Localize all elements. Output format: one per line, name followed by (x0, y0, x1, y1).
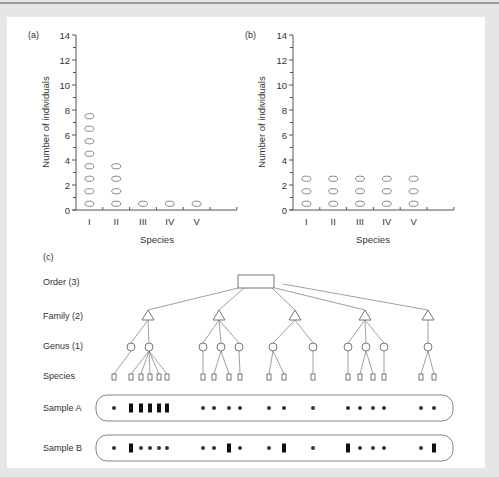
individual-oval-b (302, 176, 311, 181)
y-tick-label-a: 14 (59, 30, 70, 41)
individual-oval-a (85, 164, 94, 169)
y-tick-label-b: 8 (282, 105, 287, 116)
sample-dot-mark (157, 446, 161, 450)
family-genus-edge (148, 320, 149, 343)
species-node (112, 374, 116, 380)
individual-oval-b (356, 189, 365, 194)
species-node (282, 374, 286, 380)
y-tick-label-b: 6 (282, 130, 287, 141)
individual-oval-b (382, 201, 391, 206)
sample-dot-mark (112, 446, 116, 450)
individual-oval-a (139, 201, 148, 206)
x-tick-label-a: III (139, 216, 147, 227)
species-node (371, 374, 375, 380)
individual-oval-b (302, 189, 311, 194)
species-node (212, 374, 216, 380)
individual-oval-b (302, 201, 311, 206)
family-node (289, 310, 301, 320)
y-tick-label-a: 6 (65, 130, 70, 141)
family-node (422, 310, 434, 320)
sample-dot-mark (201, 446, 205, 450)
genus-node (309, 343, 317, 351)
genus-species-edge (273, 351, 284, 374)
y-tick-label-a: 4 (65, 155, 70, 166)
individual-oval-b (409, 176, 418, 181)
sample-dot-mark (371, 446, 375, 450)
chart-b: (b) Number of individuals Species 024681… (245, 30, 454, 246)
sample-label-a: Sample A (43, 403, 82, 413)
order-family-edge (148, 288, 238, 310)
sample-dot-mark (419, 446, 423, 450)
species-node (346, 374, 350, 380)
y-tick-label-a: 8 (65, 105, 70, 116)
genus-species-edge (269, 351, 273, 374)
sample-bar-mark (227, 444, 231, 453)
family-genus-edge (348, 320, 365, 343)
family-node (359, 310, 371, 320)
individual-oval-a (85, 126, 94, 131)
x-tick-label-b: V (410, 216, 417, 227)
level-label-genus: Genus (1) (43, 341, 83, 351)
genus-species-edge (214, 351, 221, 374)
individual-oval-a (85, 151, 94, 156)
order-family-edge (272, 288, 295, 310)
y-tick-label-a: 12 (59, 55, 70, 66)
x-tick-label-a: I (88, 216, 91, 227)
sample-dot-mark (282, 406, 286, 410)
panel-label-b: (b) (245, 30, 256, 40)
order-family-edge (219, 288, 244, 310)
species-node (382, 374, 386, 380)
species-node (139, 374, 143, 380)
sample-dot-mark (358, 446, 362, 450)
y-tick-label-b: 2 (282, 180, 287, 191)
individual-oval-a (112, 201, 121, 206)
individual-oval-a (85, 139, 94, 144)
individual-oval-b (409, 189, 418, 194)
x-tick-label-a: IV (165, 216, 175, 227)
sample-dot-mark (382, 406, 386, 410)
sample-dot-mark (419, 406, 423, 410)
sample-dot-mark (346, 406, 350, 410)
genus-node (424, 343, 432, 351)
sample-bar-mark (165, 404, 169, 413)
family-genus-edge (365, 320, 366, 343)
individual-oval-b (356, 176, 365, 181)
x-tick-label-b: IV (382, 216, 392, 227)
genus-species-edge (149, 351, 159, 374)
order-family-edge (275, 288, 365, 310)
x-tick-label-a: II (114, 216, 119, 227)
genus-species-edge (428, 351, 434, 374)
genus-node (145, 343, 153, 351)
species-node (311, 374, 315, 380)
genus-species-edge (114, 351, 131, 374)
genus-node (127, 343, 135, 351)
level-label-family: Family (2) (43, 311, 83, 321)
individual-oval-a (112, 164, 121, 169)
sample-dot-mark (267, 406, 271, 410)
individual-oval-b (382, 189, 391, 194)
sample-dot-mark (139, 446, 143, 450)
species-node (267, 374, 271, 380)
sample-dot-mark (201, 406, 205, 410)
genus-node (362, 343, 370, 351)
individual-oval-a (112, 176, 121, 181)
x-axis-label-a: Species (140, 234, 174, 245)
sample-bar-mark (139, 404, 143, 413)
figure: (a) Number of individuals Species 024681… (0, 0, 499, 477)
species-node (148, 374, 152, 380)
sample-bar-mark (129, 404, 133, 413)
species-node (165, 374, 169, 380)
y-tick-label-b: 10 (276, 80, 287, 91)
genus-species-edge (221, 351, 229, 374)
family-genus-edge (295, 320, 313, 343)
level-label-order: Order (3) (43, 277, 80, 287)
sample-dot-mark (212, 406, 216, 410)
individual-oval-b (329, 189, 338, 194)
sample-bar-mark (129, 444, 133, 453)
individual-oval-a (165, 201, 174, 206)
individual-oval-a (85, 176, 94, 181)
sample-dot-mark (112, 406, 116, 410)
individual-oval-a (85, 201, 94, 206)
y-tick-label-a: 10 (59, 80, 70, 91)
chart-a: (a) Number of individuals Species 024681… (28, 30, 237, 246)
